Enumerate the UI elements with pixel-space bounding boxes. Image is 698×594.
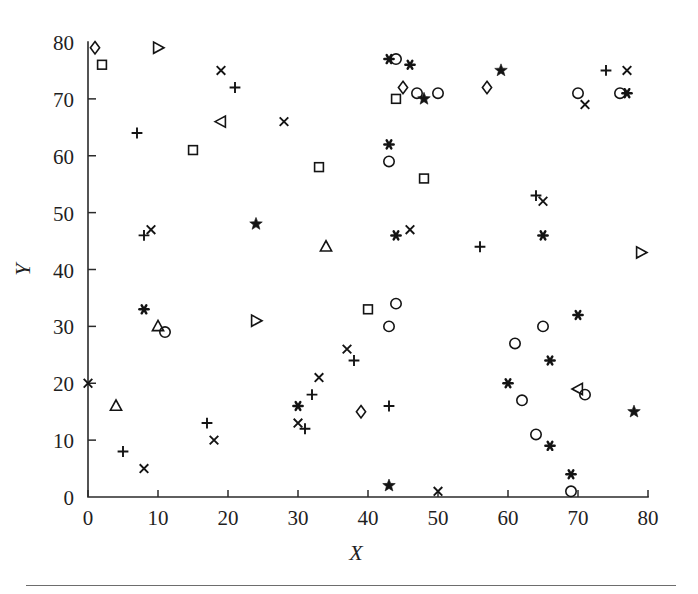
marker-square — [315, 163, 324, 172]
series-triangle-left — [215, 116, 582, 395]
y-tick-label: 20 — [53, 372, 74, 396]
y-tick-label: 10 — [53, 429, 74, 453]
series-cross — [84, 66, 632, 495]
marker-plus — [601, 65, 612, 76]
marker-triangle-left — [215, 116, 225, 127]
marker-square — [364, 305, 373, 314]
marker-star — [418, 92, 431, 104]
x-tick-label: 30 — [288, 506, 309, 530]
marker-triangle-up — [110, 400, 121, 410]
marker-circle — [160, 327, 170, 337]
y-tick-label: 60 — [53, 145, 74, 169]
marker-asterisk — [293, 402, 302, 410]
marker-cross — [147, 225, 156, 234]
series-square — [98, 60, 429, 313]
marker-plus — [132, 128, 143, 139]
marker-plus — [202, 418, 213, 429]
x-axis-title: X — [348, 540, 364, 565]
x-tick-label: 50 — [428, 506, 449, 530]
marker-cross — [294, 419, 303, 428]
marker-cross — [217, 66, 226, 75]
series-star — [250, 64, 641, 491]
marker-asterisk — [545, 357, 554, 365]
marker-cross — [210, 436, 219, 445]
y-tick-label: 80 — [53, 31, 74, 55]
marker-diamond — [90, 41, 99, 53]
x-tick-label: 70 — [568, 506, 589, 530]
marker-plus — [475, 241, 486, 252]
marker-square — [98, 60, 107, 69]
marker-triangle-right — [252, 315, 262, 326]
marker-asterisk — [139, 305, 148, 313]
data-markers-group — [84, 41, 647, 496]
series-triangle-up — [110, 241, 331, 410]
x-tick-label: 20 — [218, 506, 239, 530]
marker-circle — [391, 298, 401, 308]
x-tick-label: 10 — [148, 506, 169, 530]
x-tick-label: 40 — [358, 506, 379, 530]
marker-asterisk — [503, 379, 512, 387]
marker-plus — [349, 355, 360, 366]
marker-asterisk — [405, 61, 414, 69]
marker-plus — [307, 389, 318, 400]
axis-labels-group: XY — [10, 261, 364, 565]
x-tick-label: 80 — [638, 506, 659, 530]
marker-circle — [538, 321, 548, 331]
y-tick-label: 0 — [64, 486, 75, 510]
marker-square — [420, 174, 429, 183]
series-plus — [118, 65, 612, 457]
marker-asterisk — [566, 470, 575, 478]
series-asterisk — [139, 55, 631, 478]
marker-diamond — [356, 405, 365, 417]
marker-cross — [140, 464, 149, 473]
scatter-plot-figure: 0102030405060708001020304050607080 XY — [0, 0, 698, 594]
marker-diamond — [482, 81, 491, 93]
marker-triangle-up — [152, 320, 163, 330]
marker-circle — [573, 88, 583, 98]
marker-circle — [433, 88, 443, 98]
marker-cross — [623, 66, 632, 75]
marker-cross — [406, 225, 415, 234]
axis-spines — [88, 42, 648, 497]
y-tick-label: 30 — [53, 315, 74, 339]
marker-plus — [118, 446, 129, 457]
marker-square — [392, 94, 401, 103]
marker-cross — [539, 197, 548, 206]
marker-circle — [510, 338, 520, 348]
plot-canvas: 0102030405060708001020304050607080 XY — [0, 0, 698, 594]
marker-asterisk — [538, 231, 547, 239]
footer-rule — [26, 585, 676, 586]
marker-square — [189, 146, 198, 155]
marker-star — [383, 479, 396, 491]
marker-cross — [280, 117, 289, 126]
marker-triangle-right — [154, 42, 164, 53]
marker-star — [250, 217, 263, 229]
y-axis-title: Y — [10, 261, 35, 276]
axes-group: 0102030405060708001020304050607080 — [53, 31, 659, 530]
marker-asterisk — [573, 311, 582, 319]
x-tick-label: 0 — [83, 506, 94, 530]
marker-triangle-up — [320, 241, 331, 251]
series-circle — [160, 54, 625, 497]
marker-asterisk — [545, 442, 554, 450]
marker-triangle-right — [637, 247, 647, 258]
marker-plus — [384, 401, 395, 412]
marker-diamond — [398, 81, 407, 93]
marker-circle — [384, 321, 394, 331]
marker-cross — [343, 345, 352, 354]
marker-star — [495, 64, 508, 76]
y-tick-label: 70 — [53, 88, 74, 112]
marker-circle — [384, 156, 394, 166]
x-tick-label: 60 — [498, 506, 519, 530]
y-tick-label: 40 — [53, 259, 74, 283]
marker-star — [628, 405, 641, 417]
marker-circle — [517, 395, 527, 405]
marker-plus — [230, 82, 241, 93]
marker-asterisk — [391, 231, 400, 239]
marker-circle — [566, 486, 576, 496]
marker-cross — [315, 373, 324, 382]
marker-asterisk — [384, 140, 393, 148]
marker-circle — [531, 429, 541, 439]
marker-cross — [581, 100, 590, 109]
y-tick-label: 50 — [53, 202, 74, 226]
